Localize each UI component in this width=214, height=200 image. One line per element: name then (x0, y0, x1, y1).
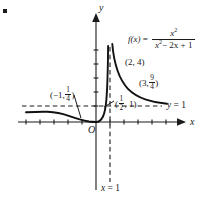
formula-fraction: x2 x2− 2x + 1 (152, 28, 195, 52)
point-0-x: −1, (53, 90, 65, 100)
point-1-comma-y: , 1 (125, 99, 134, 109)
point-label-2-4: (2, 4) (125, 58, 145, 67)
point-1-close: ) (134, 99, 137, 109)
y-axis-label: y (99, 3, 103, 13)
point-1-open: ( (115, 99, 118, 109)
figure-container: y x O f(x) = x2 x2− 2x + 1 (2, 4) (3,94)… (0, 0, 214, 200)
point-1-fraction: 12 (119, 95, 124, 111)
vertical-asymptote-label: x = 1 (101, 184, 120, 194)
horizontal-asymptote-label: y = 1 (167, 101, 186, 111)
function-formula: f(x) = x2 x2− 2x + 1 (128, 28, 195, 52)
point-3-close: ) (155, 78, 158, 88)
va-var: x (101, 183, 105, 193)
point-label-3-9over4: (3,94) (139, 74, 158, 90)
y-axis (92, 13, 100, 190)
point-label-neg1-1over4: (−1,14) (50, 86, 74, 102)
point-3-fraction: 94 (149, 74, 154, 90)
point-0-close: ) (71, 90, 74, 100)
origin-label: O (88, 125, 95, 135)
formula-function-name: f(x) (128, 34, 141, 44)
formula-numerator: x2 (152, 28, 195, 39)
ha-eq: = (174, 100, 179, 110)
formula-denominator-rest: − 2x + 1 (162, 40, 192, 50)
va-eq: = (108, 183, 113, 193)
formula-denominator: x2− 2x + 1 (152, 39, 195, 51)
x-axis-label: x (190, 117, 194, 127)
formula-equals: = (143, 34, 148, 44)
ha-var: y (167, 100, 171, 110)
ha-val: 1 (181, 100, 186, 110)
point-3-open: (3, (139, 78, 149, 88)
va-val: 1 (115, 183, 120, 193)
point-label-half-1: (12, 1) (115, 95, 137, 111)
